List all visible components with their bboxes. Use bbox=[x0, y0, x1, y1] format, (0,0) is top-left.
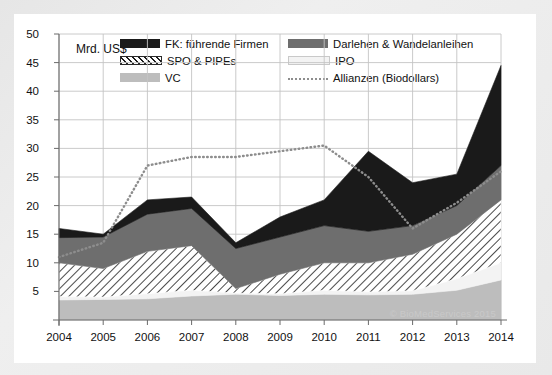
y-axis-tick-label: 5 bbox=[5, 285, 39, 297]
x-axis-tick-label: 2011 bbox=[356, 331, 381, 343]
x-axis-tick-label: 2004 bbox=[46, 331, 72, 343]
stacked-area-chart: Mrd. US$ FK: führende Firmen Darlehen & … bbox=[14, 14, 536, 363]
x-axis-tick-label: 2006 bbox=[135, 331, 161, 343]
copyright-watermark: © BioMedServices 2015 bbox=[390, 308, 496, 319]
x-axis-tick-label: 2005 bbox=[90, 331, 116, 343]
image-frame: Mrd. US$ FK: führende Firmen Darlehen & … bbox=[0, 0, 552, 375]
chart-card: Mrd. US$ FK: führende Firmen Darlehen & … bbox=[14, 14, 536, 363]
x-axis-tick-label: 2012 bbox=[400, 331, 426, 343]
x-axis-tick-label: 2007 bbox=[179, 331, 205, 343]
y-axis-tick-label: 45 bbox=[5, 57, 39, 69]
x-axis-tick-label: 2009 bbox=[267, 331, 293, 343]
x-axis-tick-label: 2008 bbox=[223, 331, 249, 343]
y-axis-tick-label: 10 bbox=[5, 257, 39, 269]
x-axis-tick-label: 2014 bbox=[488, 331, 514, 343]
x-axis-tick-label: 2013 bbox=[444, 331, 470, 343]
y-axis-tick-label: 50 bbox=[5, 28, 39, 40]
y-axis-tick-label: 15 bbox=[5, 228, 39, 240]
y-axis-tick-label: 35 bbox=[5, 114, 39, 126]
y-axis-tick-label: 25 bbox=[5, 171, 39, 183]
plot-area bbox=[59, 34, 501, 320]
x-axis-tick-label: 2010 bbox=[311, 331, 337, 343]
y-axis-tick-label: 20 bbox=[5, 200, 39, 212]
y-axis-tick-label: 30 bbox=[5, 142, 39, 154]
y-axis-tick-label: 40 bbox=[5, 85, 39, 97]
plot-svg bbox=[59, 34, 501, 320]
